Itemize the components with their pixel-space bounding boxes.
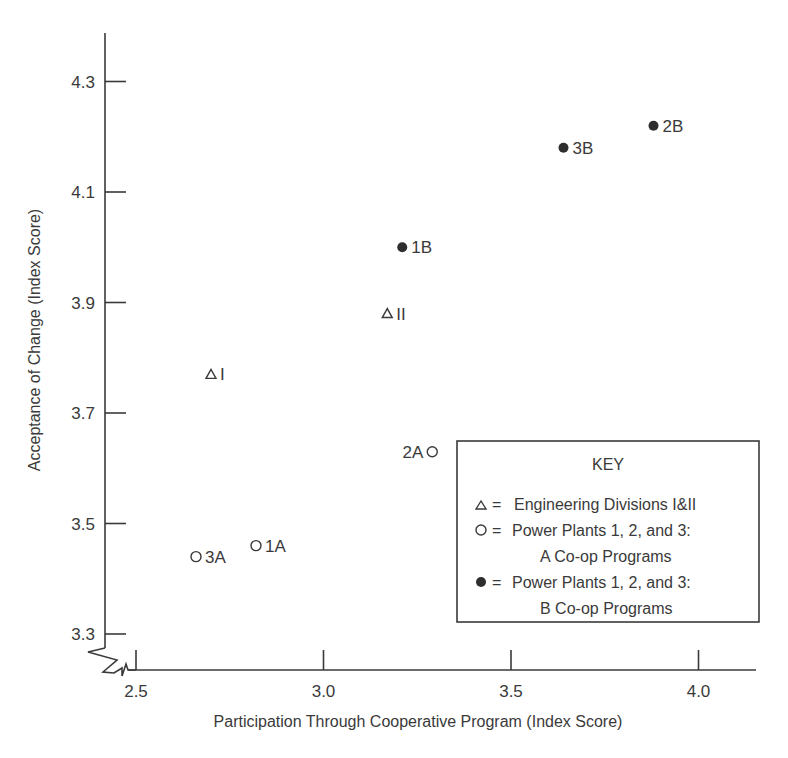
svg-text:=: = [492,496,501,513]
data-point-2a: 2A [402,443,437,462]
x-tick-label: 4.0 [687,682,711,701]
point-label: 1A [265,537,286,556]
x-tick: 3.0 [312,650,336,701]
data-point-1a: 1A [251,537,286,556]
legend: KEY = Engineering Divisions I&II = Power… [457,441,759,622]
legend-label-line2: A Co-op Programs [540,548,672,565]
data-point-3b: 3B [559,139,594,158]
circle-filled-icon [397,242,407,252]
x-tick-label: 3.5 [499,682,523,701]
legend-label: Power Plants 1, 2, and 3: [512,574,691,591]
y-tick-label: 3.9 [71,294,95,313]
y-tick: 3.9 [71,294,126,313]
svg-text:=: = [492,522,501,539]
circle-filled-icon [559,143,569,153]
y-tick: 4.3 [71,73,126,92]
legend-label: Engineering Divisions I&II [514,496,696,513]
y-ticks: 3.33.53.73.94.14.3 [71,73,126,645]
data-point-3a: 3A [191,548,226,567]
point-label: 2B [663,117,684,136]
circle-open-icon [427,447,437,457]
y-axis [88,33,136,676]
x-tick: 2.5 [124,650,148,701]
point-label: 3B [573,139,594,158]
y-axis-title: Acceptance of Change (Index Score) [26,209,43,471]
y-tick-label: 4.3 [71,73,95,92]
svg-text:=: = [492,574,501,591]
y-tick-label: 4.1 [71,183,95,202]
point-label: 1B [411,238,432,257]
y-tick-label: 3.7 [71,404,95,423]
circle-filled-icon [476,577,486,587]
data-point-i: I [206,365,225,384]
data-point-1b: 1B [397,238,432,257]
x-tick: 3.5 [499,650,523,701]
y-tick-label: 3.3 [71,625,95,644]
data-point-ii: II [382,305,405,324]
point-label: 2A [402,443,423,462]
x-axis-title: Participation Through Cooperative Progra… [214,713,623,730]
y-tick: 4.1 [71,183,126,202]
point-label: 3A [205,548,226,567]
data-point-2b: 2B [649,117,684,136]
y-tick: 3.5 [71,515,126,534]
circle-open-icon [251,541,261,551]
circle-filled-icon [649,121,659,131]
legend-label: Power Plants 1, 2, and 3: [512,522,691,539]
x-tick: 4.0 [687,650,711,701]
point-label: II [396,305,405,324]
legend-label-line2: B Co-op Programs [540,600,673,617]
legend-title: KEY [592,456,624,473]
x-ticks: 2.53.03.54.0 [124,650,710,701]
triangle-open-icon [206,369,216,378]
y-tick-label: 3.5 [71,515,95,534]
x-tick-label: 3.0 [312,682,336,701]
y-tick: 3.7 [71,404,126,423]
circle-open-icon [191,552,201,562]
y-tick: 3.3 [71,625,126,644]
triangle-open-icon [382,309,392,318]
point-label: I [220,365,225,384]
scatter-chart: 3.33.53.73.94.14.3 2.53.03.54.0 Acceptan… [0,0,788,758]
x-tick-label: 2.5 [124,682,148,701]
